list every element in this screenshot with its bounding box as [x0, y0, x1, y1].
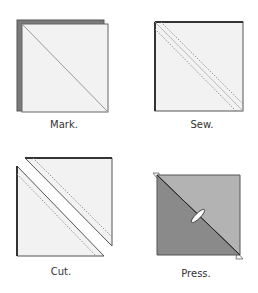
step-label-press: Press.	[181, 268, 211, 279]
hst-diagram: Mark. Sew. Cut. Press.	[0, 0, 258, 293]
step-label-cut: Cut.	[51, 266, 71, 277]
step-sew: Sew.	[155, 22, 243, 130]
step-press: Press.	[153, 173, 243, 279]
step-cut: Cut.	[17, 158, 112, 277]
step-label-sew: Sew.	[191, 119, 214, 130]
step-mark: Mark.	[17, 20, 108, 130]
step-label-mark: Mark.	[50, 119, 78, 130]
